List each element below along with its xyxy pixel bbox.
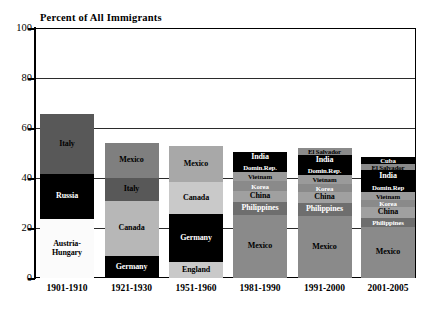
x-axis-label-1951-1960: 1951-1960: [161, 283, 231, 293]
segment-label: Domin.Rep.: [308, 167, 342, 174]
segment-label: Cuba: [380, 157, 395, 164]
gridline-80: [36, 78, 415, 79]
segment-label: Austria-Hungary: [52, 240, 82, 257]
bar-segment-1981-1990-korea[interactable]: Korea: [233, 181, 287, 191]
bar-1901-1910[interactable]: ItalyRussiaAustria-Hungary: [40, 114, 94, 278]
bar-segment-1921-1930-italy[interactable]: Italy: [105, 178, 159, 201]
x-axis-label-1921-1930: 1921-1930: [97, 283, 167, 293]
segment-label: Mexico: [312, 243, 336, 252]
segment-label: Philippines: [372, 219, 403, 226]
bar-1951-1960[interactable]: MexicoCanadaGermanyEngland: [169, 146, 223, 278]
bar-segment-1921-1930-germany[interactable]: Germany: [105, 256, 159, 279]
segment-label: Mexico: [184, 160, 208, 169]
segment-label: Mexico: [248, 242, 272, 251]
bar-segment-1991-2000-china[interactable]: China: [298, 192, 352, 203]
x-axis-label-2001-2005: 2001-2005: [353, 283, 423, 293]
bar-segment-2001-2005-dominrep[interactable]: Domin.Rep: [361, 183, 415, 192]
segment-label: England: [182, 266, 210, 275]
segment-label: Domin.Rep.: [243, 164, 277, 171]
segment-label: Korea: [251, 183, 269, 190]
bar-segment-1951-1960-canada[interactable]: Canada: [169, 182, 223, 214]
segment-label: Canada: [118, 224, 144, 233]
bar-segment-1991-2000-india[interactable]: India: [298, 155, 352, 166]
bar-segment-1991-2000-vietnam[interactable]: Vietnam: [298, 175, 352, 184]
bar-segment-1901-1910-austriahungary[interactable]: Austria-Hungary: [40, 219, 94, 278]
bar-segment-2001-2005-korea[interactable]: Korea: [361, 200, 415, 207]
segment-label: Korea: [316, 185, 334, 192]
bar-1981-1990[interactable]: IndiaDomin.Rep.VietnamKoreaChinaPhilippi…: [233, 152, 287, 278]
segment-label: Italy: [59, 140, 75, 149]
bar-segment-1901-1910-russia[interactable]: Russia: [40, 174, 94, 219]
immigration-stacked-bar-chart: Percent of All Immigrants 020406080100 I…: [0, 0, 425, 319]
bar-1991-2000[interactable]: El SalvadorIndiaDomin.Rep.VietnamKoreaCh…: [298, 148, 352, 278]
y-tick-mark-100: [28, 28, 35, 30]
segment-label: Vietnam: [376, 193, 400, 200]
segment-label: Canada: [183, 194, 209, 203]
y-tick-mark-0: [28, 278, 35, 280]
bar-segment-1981-1990-india[interactable]: India: [233, 152, 287, 163]
bar-segment-1981-1990-mexico[interactable]: Mexico: [233, 215, 287, 278]
bar-segment-2001-2005-philippines[interactable]: Philippines: [361, 218, 415, 227]
segment-label: India: [316, 156, 334, 165]
segment-label: Domin.Rep: [372, 184, 404, 191]
y-axis-ticks: 020406080100: [0, 0, 32, 319]
segment-label: Philippines: [241, 204, 278, 213]
y-tick-mark-20: [28, 228, 35, 230]
segment-label: China: [378, 208, 398, 217]
segment-label: China: [314, 193, 334, 202]
segment-label: India: [379, 172, 397, 181]
y-tick-mark-60: [28, 128, 35, 130]
segment-label: Mexico: [376, 248, 400, 257]
segment-label: Korea: [379, 200, 397, 207]
bar-segment-1981-1990-vietnam[interactable]: Vietnam: [233, 172, 287, 181]
y-tick-mark-80: [28, 78, 35, 80]
chart-title: Percent of All Immigrants: [40, 12, 162, 23]
segment-label: Mexico: [119, 156, 143, 165]
segment-label: India: [251, 153, 269, 162]
bar-segment-1991-2000-elsalvador[interactable]: El Salvador: [298, 148, 352, 155]
bar-segment-1981-1990-dominrep[interactable]: Domin.Rep.: [233, 163, 287, 172]
bar-segment-1951-1960-england[interactable]: England: [169, 262, 223, 278]
segment-label: Germany: [116, 263, 148, 272]
segment-label: Philippines: [306, 205, 343, 214]
segment-label: El Salvador: [308, 148, 341, 155]
bar-segment-2001-2005-cuba[interactable]: Cuba: [361, 157, 415, 164]
bar-segment-1951-1960-mexico[interactable]: Mexico: [169, 146, 223, 182]
segment-label: Italy: [124, 185, 140, 194]
bar-segment-1991-2000-dominrep[interactable]: Domin.Rep.: [298, 166, 352, 175]
bar-segment-1951-1960-germany[interactable]: Germany: [169, 214, 223, 262]
x-axis-label-1901-1910: 1901-1910: [32, 283, 102, 293]
bar-segment-1921-1930-canada[interactable]: Canada: [105, 201, 159, 256]
bar-segment-2001-2005-india[interactable]: India: [361, 170, 415, 183]
y-axis-line: [34, 27, 36, 279]
bar-segment-2001-2005-vietnam[interactable]: Vietnam: [361, 192, 415, 200]
bar-segment-1901-1910-italy[interactable]: Italy: [40, 114, 94, 174]
segment-label: Vietnam: [248, 173, 272, 180]
bar-segment-1991-2000-mexico[interactable]: Mexico: [298, 216, 352, 278]
bar-segment-1991-2000-korea[interactable]: Korea: [298, 184, 352, 192]
y-tick-mark-40: [28, 178, 35, 180]
bar-segment-2001-2005-mexico[interactable]: Mexico: [361, 227, 415, 278]
x-axis-label-1981-1990: 1981-1990: [225, 283, 295, 293]
x-axis-label-1991-2000: 1991-2000: [290, 283, 360, 293]
segment-label: Russia: [56, 192, 78, 201]
bar-2001-2005[interactable]: CubaEl SalvadorIndiaDomin.RepVietnamKore…: [361, 157, 415, 278]
bar-segment-1991-2000-philippines[interactable]: Philippines: [298, 203, 352, 216]
segment-label: Vietnam: [313, 176, 337, 183]
segment-label: Germany: [180, 234, 212, 243]
bar-1921-1930[interactable]: MexicoItalyCanadaGermany: [105, 143, 159, 278]
bar-segment-1981-1990-philippines[interactable]: Philippines: [233, 202, 287, 215]
bar-segment-1921-1930-mexico[interactable]: Mexico: [105, 143, 159, 178]
bar-segment-1981-1990-china[interactable]: China: [233, 191, 287, 202]
segment-label: China: [250, 192, 270, 201]
bar-segment-2001-2005-china[interactable]: China: [361, 207, 415, 218]
